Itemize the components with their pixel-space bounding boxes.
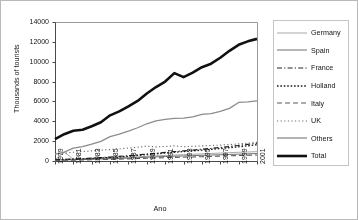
legend-item-total[interactable]: Total [274, 147, 348, 165]
x-tick-label-text: 1991 [167, 148, 174, 164]
legend-swatch-france-icon [277, 63, 307, 73]
legend-label: Spain [311, 46, 329, 55]
legend-swatch-total-icon [277, 151, 307, 161]
legend-label: Germany [311, 28, 341, 37]
x-tick-label-text: 1999 [241, 148, 248, 164]
x-tick-label-text: 1985 [112, 148, 119, 164]
y-tick-label: 4000 [15, 117, 49, 124]
y-tick-label: 10000 [15, 58, 49, 65]
x-tick-label-text: 1993 [186, 148, 193, 164]
legend-swatch-germany-icon [277, 28, 307, 38]
legend-item-uk[interactable]: UK [274, 112, 348, 130]
y-tick-label: 2000 [15, 137, 49, 144]
x-tick-label-text: 1979 [57, 148, 64, 164]
y-tick-label: 12000 [15, 38, 49, 45]
legend-item-germany[interactable]: Germany [274, 24, 348, 42]
legend-swatch-others-icon [277, 133, 307, 143]
chart-legend: GermanySpainFranceHollandItalyUKOthersTo… [273, 20, 349, 166]
x-tick-label-text: 1989 [149, 148, 156, 164]
legend-label: Total [311, 151, 326, 160]
legend-swatch-uk-icon [277, 116, 307, 126]
y-tick-label: 0 [15, 157, 49, 164]
legend-item-france[interactable]: France [274, 59, 348, 77]
x-tick-label-text: 1997 [222, 148, 229, 164]
y-tick-label: 6000 [15, 97, 49, 104]
legend-label: Others [311, 134, 333, 143]
legend-label: Italy [311, 99, 324, 108]
legend-item-italy[interactable]: Italy [274, 94, 348, 112]
legend-item-spain[interactable]: Spain [274, 42, 348, 60]
x-tick-label-text: 1995 [204, 148, 211, 164]
legend-item-others[interactable]: Others [274, 130, 348, 148]
x-tick-label-text: 1983 [94, 148, 101, 164]
x-tick-label-text: 1987 [130, 148, 137, 164]
x-tick-label-text: 1981 [75, 148, 82, 164]
x-axis-title: Ano [130, 204, 190, 213]
legend-label: France [311, 63, 333, 72]
legend-swatch-holland-icon [277, 81, 307, 91]
x-tick-label-text: 2001 [259, 148, 266, 164]
legend-swatch-italy-icon [277, 98, 307, 108]
y-tick-label: 8000 [15, 78, 49, 85]
y-tick-label: 14000 [15, 18, 49, 25]
chart-figure: Thousands of tourists Ano 02000400060008… [0, 0, 358, 220]
legend-label: UK [311, 116, 321, 125]
legend-swatch-spain-icon [277, 45, 307, 55]
legend-label: Holland [311, 81, 335, 90]
legend-item-holland[interactable]: Holland [274, 77, 348, 95]
